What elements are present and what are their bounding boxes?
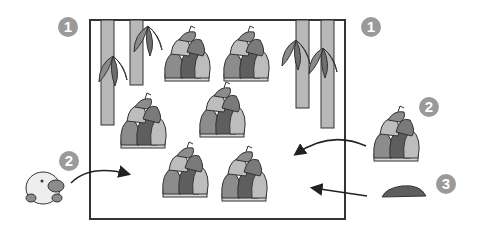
platypus-icon — [26, 172, 64, 204]
step-badge-2: 2 — [419, 97, 439, 117]
step-badge-1: 1 — [58, 17, 78, 37]
arrow-icon — [71, 140, 367, 196]
bamboo-shoot-icon — [121, 26, 419, 201]
dark-mound-icon — [382, 186, 426, 197]
step-badge-1: 1 — [361, 17, 381, 37]
step-badge-3: 3 — [436, 174, 456, 194]
step-badge-2: 2 — [59, 151, 79, 171]
